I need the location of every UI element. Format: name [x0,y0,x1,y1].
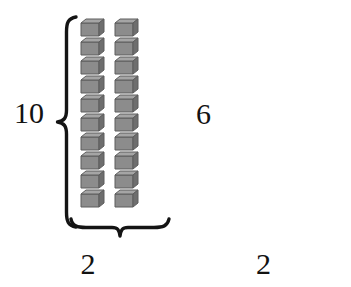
unit-cube [114,132,140,151]
unit-cube [114,37,140,56]
left-horizontal-brace-icon [68,216,172,246]
unit-cube [80,18,106,37]
unit-cube [80,170,106,189]
unit-cube [80,75,106,94]
unit-cube [80,56,106,75]
row-count-label-right: 6 [196,99,211,129]
unit-cube [114,18,140,37]
unit-cube [114,94,140,113]
column-count-label-right: 2 [176,249,351,279]
unit-cube [114,56,140,75]
cube-group-left: 10 2 [0,0,176,287]
unit-cube [114,189,140,208]
unit-cube [80,132,106,151]
cube-group-right: 6 2 [176,0,351,287]
unit-cube [80,94,106,113]
unit-cube [80,113,106,132]
unit-cube [114,170,140,189]
left-vertical-brace-icon [54,14,80,230]
cube-array-left [80,18,140,208]
unit-cube [80,189,106,208]
unit-cube [80,151,106,170]
unit-cube [114,75,140,94]
unit-cube [80,37,106,56]
row-count-label-left: 10 [14,98,44,128]
column-count-label-left: 2 [0,249,176,279]
unit-cube [114,113,140,132]
diagram-canvas: 10 2 [0,0,351,287]
unit-cube [114,151,140,170]
